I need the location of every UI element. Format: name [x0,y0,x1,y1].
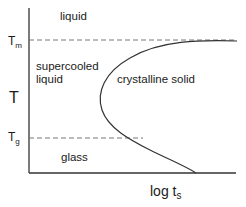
y-axis-label: T [9,89,19,106]
phase-diagram: Tm Tg T log ts liquid supercooled liquid… [0,0,246,207]
x-axis-label: log ts [150,183,181,201]
tm-label: Tm [8,34,22,50]
region-glass: glass [61,151,88,163]
crystallization-curve [100,41,237,173]
region-supercooled-line1: supercooled [36,60,99,72]
region-supercooled-line2: liquid [36,73,63,85]
region-liquid: liquid [60,10,87,22]
tg-label: Tg [8,130,20,146]
region-crystalline-solid: crystalline solid [117,73,195,85]
